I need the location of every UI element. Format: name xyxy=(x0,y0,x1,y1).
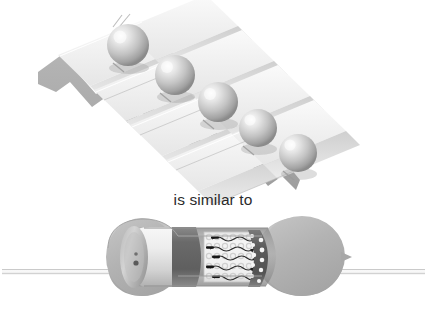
ball-1 xyxy=(107,24,149,74)
washboard-ramp-panel xyxy=(38,0,360,205)
left-lead-wire xyxy=(2,269,110,274)
left-end-cap-inner xyxy=(124,232,144,282)
right-lead-wire xyxy=(333,269,425,274)
ball-4 xyxy=(239,109,277,155)
ball-5 xyxy=(279,134,317,180)
ball-3 xyxy=(198,82,238,130)
lead-socket-b xyxy=(134,252,138,256)
analogy-caption: is similar to xyxy=(0,191,426,209)
physics-analogy-figure xyxy=(0,0,426,333)
resistor-cutaway-panel xyxy=(2,216,425,296)
right-bulb-tip xyxy=(341,252,352,262)
ball-2 xyxy=(155,55,195,103)
lead-socket xyxy=(133,260,138,265)
